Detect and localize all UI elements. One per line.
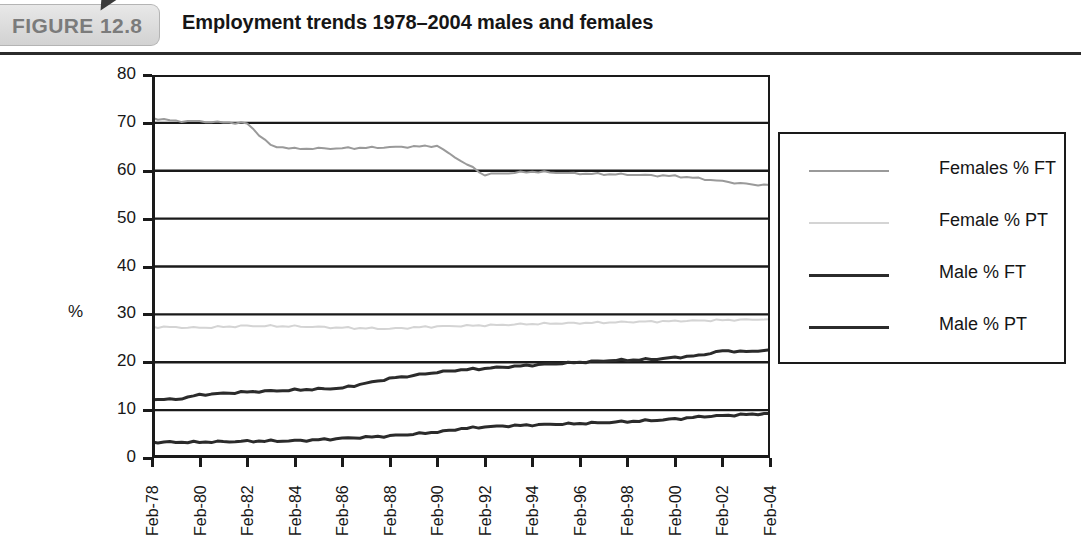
y-tick-mark <box>143 361 152 364</box>
chart-legend: Females % FTFemale % PTMale % FTMale % P… <box>778 132 1066 364</box>
y-tick-label: 30 <box>100 303 136 323</box>
x-tick-mark <box>436 458 439 467</box>
legend-color-swatch <box>809 222 889 224</box>
y-tick-label: 20 <box>100 351 136 371</box>
x-tick-mark <box>626 458 629 467</box>
x-tick-label: Feb-00 <box>667 485 685 535</box>
x-tick-label: Feb-02 <box>714 485 732 535</box>
legend-item-label: Male % PT <box>939 314 1027 335</box>
legend-color-swatch <box>809 326 889 329</box>
x-tick-label: Feb-92 <box>477 485 495 535</box>
legend-item[interactable]: Females % FT <box>780 146 1064 198</box>
legend-item-label: Females % FT <box>939 158 1056 179</box>
figure-title: Employment trends 1978–2004 males and fe… <box>182 11 653 34</box>
y-tick-mark <box>143 266 152 269</box>
x-tick-mark <box>769 458 772 467</box>
y-tick-mark <box>143 409 152 412</box>
y-tick-label: 70 <box>100 112 136 132</box>
pointer-arrow-icon <box>101 0 119 12</box>
x-tick-label: Feb-84 <box>287 485 305 535</box>
y-tick-mark <box>143 74 152 77</box>
x-tick-label: Feb-98 <box>619 485 637 535</box>
legend-item[interactable]: Female % PT <box>780 198 1064 250</box>
x-tick-mark <box>199 458 202 467</box>
x-tick-label: Feb-90 <box>429 485 447 535</box>
y-tick-label: 60 <box>100 160 136 180</box>
figure-number-badge: FIGURE 12.8 <box>0 4 160 46</box>
x-tick-label: Feb-86 <box>334 485 352 535</box>
y-tick-label: 80 <box>100 64 136 84</box>
y-tick-label: 0 <box>100 447 136 467</box>
y-tick-mark <box>143 218 152 221</box>
x-tick-label: Feb-82 <box>239 485 257 535</box>
figure-header: FIGURE 12.8 Employment trends 1978–2004 … <box>0 0 1081 53</box>
x-tick-mark <box>674 458 677 467</box>
x-tick-mark <box>389 458 392 467</box>
chart-container: % 80706050403020100 Feb-78Feb-80Feb-82Fe… <box>0 55 1081 535</box>
plot-frame <box>152 75 770 458</box>
y-tick-mark <box>143 122 152 125</box>
x-tick-label: Feb-96 <box>572 485 590 535</box>
x-tick-label: Feb-94 <box>524 485 542 535</box>
x-tick-mark <box>294 458 297 467</box>
y-axis-title: % <box>68 302 83 322</box>
x-tick-label: Feb-04 <box>762 485 780 535</box>
x-tick-mark <box>484 458 487 467</box>
legend-item[interactable]: Male % PT <box>780 302 1064 354</box>
y-tick-mark <box>143 313 152 316</box>
y-tick-label: 50 <box>100 208 136 228</box>
x-tick-mark <box>579 458 582 467</box>
legend-color-swatch <box>809 170 889 172</box>
x-tick-mark <box>531 458 534 467</box>
x-tick-mark <box>341 458 344 467</box>
x-tick-label: Feb-80 <box>192 485 210 535</box>
x-tick-label: Feb-78 <box>144 485 162 535</box>
legend-item[interactable]: Male % FT <box>780 250 1064 302</box>
legend-color-swatch <box>809 274 889 277</box>
plot-area <box>152 75 770 458</box>
legend-item-label: Female % PT <box>939 210 1048 231</box>
x-tick-mark <box>246 458 249 467</box>
y-tick-mark <box>143 170 152 173</box>
x-tick-mark <box>721 458 724 467</box>
figure-number-label: FIGURE 12.8 <box>12 14 142 38</box>
x-tick-label: Feb-88 <box>382 485 400 535</box>
x-tick-mark <box>151 458 154 467</box>
y-tick-label: 10 <box>100 399 136 419</box>
legend-item-label: Male % FT <box>939 262 1026 283</box>
y-tick-label: 40 <box>100 256 136 276</box>
